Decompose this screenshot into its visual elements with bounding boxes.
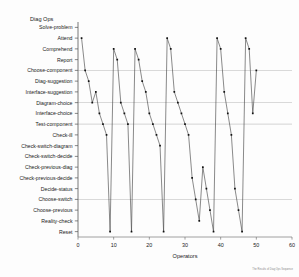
data-point-marker	[127, 123, 129, 125]
x-axis-tick-label: 0	[77, 242, 80, 248]
x-axis-tick-label: 10	[111, 242, 117, 248]
data-point-marker	[216, 37, 218, 39]
y-axis-tick-label: Report	[57, 57, 73, 63]
y-axis-tick-label: Choose-component	[27, 67, 73, 73]
y-axis-tick-label: Check-ill	[53, 132, 73, 138]
data-point-marker	[81, 37, 83, 39]
data-point-marker	[131, 231, 133, 233]
y-axis-tick-label: Check-switch-diagram	[21, 143, 72, 149]
data-point-marker	[116, 59, 118, 61]
y-axis-tick-label: Check-previous-diag	[25, 164, 73, 170]
y-axis-tick-label: Diagram-choice	[36, 100, 72, 106]
data-point-marker	[95, 91, 97, 93]
data-point-marker	[159, 145, 161, 147]
x-axis-tick-label: 30	[182, 242, 188, 248]
data-point-marker	[88, 80, 90, 82]
y-axis-tick-label: Test-component	[36, 121, 73, 127]
data-point-marker	[181, 113, 183, 115]
y-axis-tick-label: Attend	[58, 35, 73, 41]
y-axis-tick-label: Check-previous-decide	[19, 175, 72, 181]
data-point-marker	[148, 113, 150, 115]
y-axis-tick-label: Check-switch-decide	[25, 153, 73, 159]
data-point-marker	[102, 123, 104, 125]
data-point-marker	[152, 123, 154, 125]
data-point-marker	[84, 70, 86, 72]
data-point-marker	[166, 37, 168, 39]
x-axis-tick-label: 50	[253, 242, 259, 248]
y-axis-tick-label: Reset	[59, 229, 73, 235]
data-point-marker	[91, 102, 93, 104]
data-point-marker	[198, 220, 200, 222]
y-axis-tick-label: Decide-status	[41, 186, 73, 192]
data-point-marker	[145, 91, 147, 93]
y-axis-tick-label: Solve-problem	[39, 24, 72, 30]
y-axis-tick-label: Interface-choice	[36, 110, 73, 116]
data-point-marker	[106, 134, 108, 136]
data-point-marker	[120, 102, 122, 104]
data-point-marker	[241, 231, 243, 233]
data-point-marker	[231, 134, 233, 136]
diag-ops-line-chart: Diag Ops Solve-problemAttendComprehendRe…	[0, 0, 299, 277]
y-axis-tick-label: Reality-check	[41, 218, 73, 224]
y-axis-tick-label: Diag-suggestion	[35, 78, 73, 84]
data-point-marker	[227, 113, 229, 115]
data-point-marker	[113, 48, 115, 50]
y-axis-tick-label: Choose-previous	[33, 207, 73, 213]
data-point-marker	[191, 177, 193, 179]
data-point-marker	[99, 113, 101, 115]
data-point-marker	[163, 231, 165, 233]
data-point-marker	[124, 113, 126, 115]
x-axis-title: Operators	[173, 253, 198, 259]
x-axis-tick-label: 20	[146, 242, 152, 248]
data-point-marker	[184, 123, 186, 125]
data-point-marker	[156, 134, 158, 136]
y-axis-tick-label: Choose-switch	[38, 196, 72, 202]
figure-background	[0, 0, 299, 277]
chart-figure: Diag Ops Solve-problemAttendComprehendRe…	[0, 0, 299, 277]
data-point-marker	[252, 113, 254, 115]
data-point-marker	[234, 188, 236, 190]
y-axis-tick-label: Interface-suggestion	[25, 89, 72, 95]
y-axis-tick-label: Comprehend	[43, 46, 73, 52]
chart-title: Diag Ops	[30, 16, 54, 22]
data-point-marker	[238, 209, 240, 211]
x-axis-tick-label: 40	[218, 242, 224, 248]
x-axis-tick-label: 60	[289, 242, 295, 248]
data-point-marker	[173, 91, 175, 93]
data-point-marker	[248, 48, 250, 50]
data-point-marker	[209, 209, 211, 211]
data-point-marker	[195, 199, 197, 201]
data-point-marker	[213, 231, 215, 233]
data-point-marker	[206, 188, 208, 190]
data-point-marker	[138, 59, 140, 61]
figure-footer-note: The Results of Diag Ops Sequence	[252, 267, 293, 271]
data-point-marker	[134, 48, 136, 50]
data-point-marker	[223, 91, 225, 93]
data-point-marker	[141, 80, 143, 82]
data-point-marker	[220, 48, 222, 50]
data-point-marker	[245, 37, 247, 39]
data-point-marker	[109, 231, 111, 233]
data-point-marker	[177, 102, 179, 104]
data-point-marker	[188, 134, 190, 136]
data-point-marker	[170, 48, 172, 50]
data-point-marker	[202, 166, 204, 168]
data-point-marker	[255, 70, 257, 72]
